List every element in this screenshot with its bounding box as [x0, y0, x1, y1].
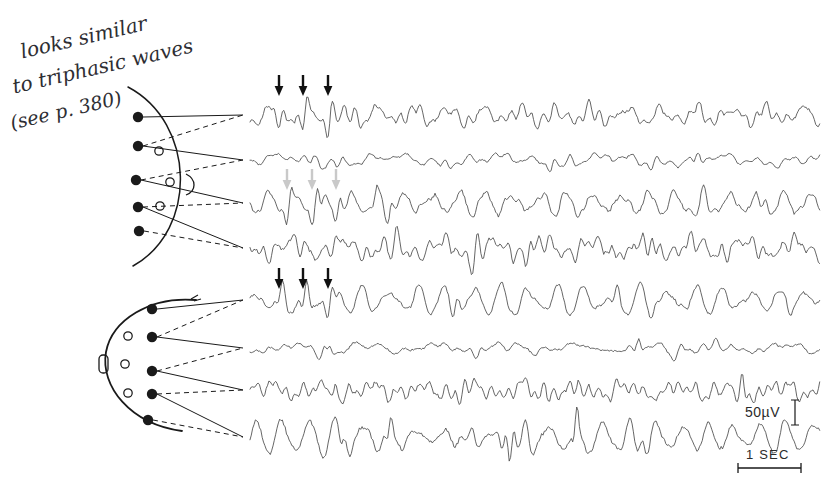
arrow-group-trace-5 — [275, 268, 333, 289]
filled-electrode-3[interactable] — [131, 175, 141, 185]
open-electrode-3[interactable] — [124, 389, 132, 397]
arrow-group-trace-1 — [275, 75, 333, 96]
eeg-trace-4 — [250, 226, 820, 274]
derivation-line-solid-4 — [143, 207, 243, 248]
eeg-figure: looks similarto triphasic waves(see p. 3… — [0, 0, 837, 501]
eeg-canvas — [0, 0, 837, 501]
arrow-head-icon-2 — [308, 180, 317, 190]
time-scale-bar — [738, 463, 801, 473]
arrow-head-icon-1 — [275, 86, 284, 96]
arrow-head-icon-2 — [299, 86, 308, 96]
derivation-line-solid-4 — [157, 394, 243, 437]
lower-head-diagram — [99, 295, 243, 437]
arrow-head-icon-3 — [324, 86, 333, 96]
derivation-line-dashed-3 — [157, 390, 243, 394]
derivation-line-solid-3 — [141, 180, 243, 203]
filled-electrode-4[interactable] — [147, 389, 157, 399]
derivation-line-dashed-4 — [144, 231, 243, 248]
filled-electrode-5[interactable] — [143, 415, 153, 425]
derivation-line-dashed-1 — [157, 300, 243, 337]
derivation-line-solid-3 — [157, 371, 243, 390]
derivation-line-dashed-2 — [157, 348, 243, 371]
arrow-head-icon-3 — [332, 180, 341, 190]
open-electrode-2[interactable] — [121, 360, 129, 368]
head-outline-profile — [105, 300, 196, 431]
eeg-trace-7 — [250, 375, 820, 405]
eeg-trace-2 — [250, 153, 820, 172]
arrow-head-icon-1 — [275, 279, 284, 289]
time-scale-label: 1 SEC — [746, 447, 790, 462]
arrow-head-icon-3 — [324, 279, 333, 289]
eeg-trace-3 — [250, 185, 820, 225]
filled-electrode-1[interactable] — [133, 112, 143, 122]
arrow-group-trace-3 — [283, 169, 341, 190]
amplitude-scale-label: 50µV — [745, 404, 780, 420]
upper-head-diagram — [128, 87, 243, 266]
eeg-trace-1 — [250, 97, 820, 138]
derivation-line-dashed-1 — [143, 115, 243, 146]
eeg-trace-6 — [250, 338, 820, 361]
open-electrode-1[interactable] — [124, 332, 132, 340]
filled-electrode-4[interactable] — [133, 202, 143, 212]
eeg-trace-group — [250, 97, 820, 461]
filled-electrode-2[interactable] — [147, 332, 157, 342]
arrow-head-icon-1 — [283, 180, 292, 190]
derivation-line-dashed-2 — [141, 160, 243, 180]
eeg-trace-5 — [250, 280, 820, 318]
filled-electrode-5[interactable] — [134, 226, 144, 236]
eeg-trace-8 — [250, 407, 820, 461]
filled-electrode-2[interactable] — [133, 141, 143, 151]
filled-electrode-3[interactable] — [147, 366, 157, 376]
filled-electrode-1[interactable] — [147, 304, 157, 314]
derivation-line-solid-1 — [143, 115, 243, 117]
derivation-line-solid-2 — [157, 337, 243, 348]
amplitude-scale-bar — [791, 400, 799, 425]
open-electrode-2[interactable] — [166, 178, 174, 186]
